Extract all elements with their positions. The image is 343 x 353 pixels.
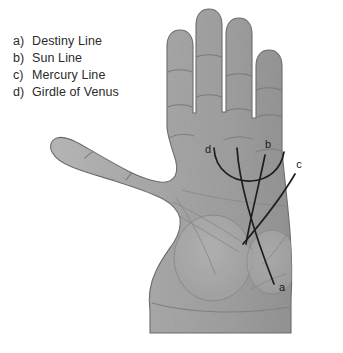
hand-illustration: d b c a <box>0 0 343 353</box>
palmistry-figure: a) Destiny Line b) Sun Line c) Mercury L… <box>0 0 343 353</box>
callout-letter-b: b <box>265 138 271 150</box>
mount-of-luna <box>247 230 297 294</box>
callout-letter-c: c <box>296 158 302 170</box>
mount-of-venus <box>174 215 252 301</box>
callout-letter-a: a <box>279 281 286 293</box>
callout-letter-d: d <box>205 143 211 155</box>
